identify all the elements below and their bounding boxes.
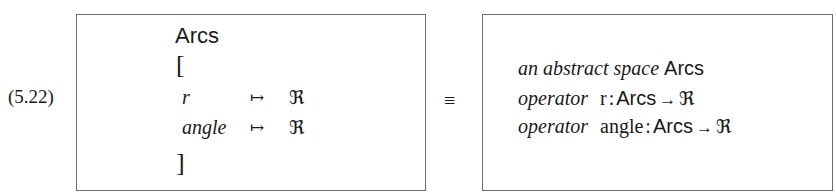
field-name-angle: angle	[182, 115, 226, 139]
keyword: operator	[518, 87, 588, 109]
arrow-icon: →	[659, 90, 676, 109]
operator-declaration-angle: operatorangle:Arcs→ℜ	[518, 114, 731, 140]
colon: :	[609, 87, 615, 109]
operator-name: r	[600, 87, 607, 109]
abstract-space-declaration: an abstract space Arcs	[518, 56, 704, 80]
field-type-reals: ℜ	[289, 115, 304, 139]
arrow-icon: →	[696, 118, 713, 137]
record-type-name: Arcs	[175, 22, 219, 50]
equivalence-symbol: ≡	[444, 88, 455, 112]
codomain: ℜ	[716, 115, 731, 137]
colon: :	[645, 115, 651, 137]
keyword: operator	[518, 115, 588, 137]
field-type-reals: ℜ	[289, 85, 304, 109]
keyword: an abstract space	[518, 57, 659, 79]
space-name: Arcs	[664, 57, 704, 79]
operator-declaration-r: operatorr:Arcs→ℜ	[518, 86, 694, 112]
maps-to-symbol: ↦	[250, 116, 264, 140]
operator-name: angle	[600, 115, 643, 137]
domain: Arcs	[653, 115, 693, 137]
domain: Arcs	[616, 87, 656, 109]
open-bracket: [	[176, 50, 185, 80]
field-name-r: r	[182, 85, 190, 109]
close-bracket: ]	[176, 148, 185, 178]
codomain: ℜ	[679, 87, 694, 109]
maps-to-symbol: ↦	[250, 86, 264, 110]
equation-number: (5.22)	[8, 85, 54, 109]
